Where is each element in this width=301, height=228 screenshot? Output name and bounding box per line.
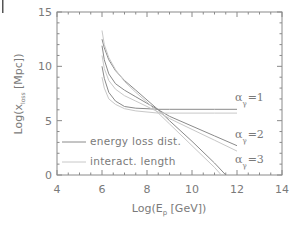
annotation-alpha-1: αγ=1 — [235, 91, 264, 108]
x-tick-label: 12 — [230, 183, 244, 196]
series-line-1 — [102, 46, 237, 146]
chart: 0 5 10 15 4 6 8 10 12 14 Log(Ep [GeV]) L… — [0, 0, 301, 228]
annotation-alpha-3: αγ=3 — [235, 153, 264, 170]
x-tick-label: 10 — [185, 183, 199, 196]
legend-label-energy-loss: energy loss dist. — [90, 135, 181, 147]
y-tick-label: 10 — [38, 60, 52, 73]
y-axis-label: Log(xloss [Mpc]) — [12, 54, 26, 135]
x-tick-label: 6 — [99, 183, 106, 196]
y-tick-label: 0 — [45, 169, 52, 182]
x-axis-label: Log(Ep [GeV]) — [132, 202, 207, 217]
annotation-alpha-2: αγ=2 — [235, 128, 264, 145]
x-tick-label: 14 — [275, 183, 289, 196]
series-line-0 — [102, 66, 237, 109]
legend-label-interact-length: interact. length — [90, 155, 176, 167]
series-line-3 — [102, 77, 237, 113]
crop-mark — [2, 0, 4, 13]
y-tick-label: 15 — [38, 6, 52, 19]
series-group — [102, 31, 237, 176]
series-line-5 — [102, 31, 221, 176]
x-tick-label: 4 — [54, 183, 61, 196]
y-tick-label: 5 — [45, 115, 52, 128]
x-tick-label: 8 — [144, 183, 151, 196]
